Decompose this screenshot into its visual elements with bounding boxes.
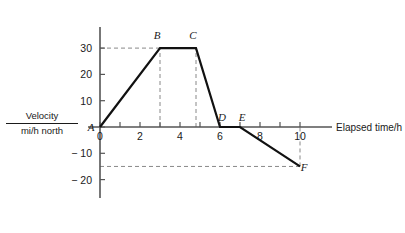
point-label-d: D	[217, 111, 226, 123]
point-label-b: B	[154, 29, 161, 41]
y-tick-label: 20	[80, 68, 92, 80]
velocity-polyline	[100, 48, 300, 166]
axis-tick-labels: 0246810− 20− 10102030	[71, 42, 306, 186]
point-label-f: F	[300, 161, 308, 173]
x-tick-label: 2	[137, 130, 143, 142]
x-axis-title: Elapsed time/h	[336, 122, 402, 133]
axis-ticks	[100, 48, 300, 180]
x-axis-title-text: Elapsed time/h	[336, 122, 402, 133]
point-label-e: E	[238, 111, 246, 123]
y-axis-title: Velocity mi/h north	[6, 110, 78, 137]
velocity-time-chart: 0246810− 20− 10102030 ABCDEF Elapsed tim…	[0, 0, 405, 233]
point-label-c: C	[189, 29, 197, 41]
x-tick-label: 6	[217, 130, 223, 142]
x-tick-label: 4	[177, 130, 183, 142]
y-axis-title-denominator: mi/h north	[6, 124, 78, 137]
y-tick-label: 10	[80, 95, 92, 107]
point-label-a: A	[87, 121, 95, 133]
velocity-series-line	[100, 48, 300, 166]
guide-lines	[100, 48, 300, 166]
axes	[88, 27, 332, 198]
y-tick-label: 30	[80, 42, 92, 54]
x-tick-label: 10	[294, 130, 306, 142]
x-tick-label: 0	[97, 130, 103, 142]
y-tick-label: − 20	[71, 174, 92, 186]
y-axis-title-numerator: Velocity	[6, 110, 78, 124]
y-tick-label: − 10	[71, 147, 92, 159]
